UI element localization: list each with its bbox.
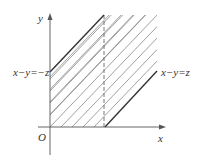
label-upper-line: x−y=−z	[12, 66, 50, 78]
y-axis-arrow-icon	[48, 13, 53, 20]
hatched-region	[0, 0, 198, 127]
origin-label: O	[38, 131, 46, 143]
label-lower-line: x−y=z	[160, 66, 191, 78]
x-axis-arrow-icon	[159, 125, 166, 130]
y-axis-label: y	[37, 12, 43, 24]
x-axis-label: x	[157, 132, 163, 144]
line-lower	[105, 71, 157, 127]
region-diagram: y x O x−y=−z x−y=z	[0, 0, 198, 162]
